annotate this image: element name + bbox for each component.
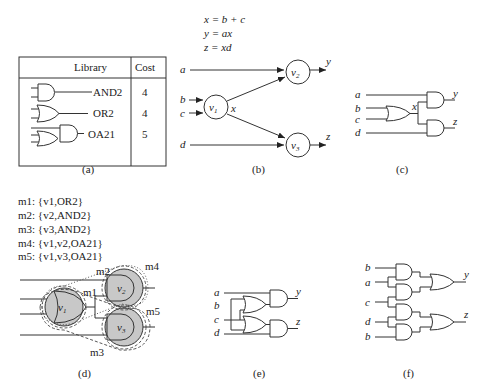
output-z: z — [463, 308, 469, 320]
internal-x: x — [411, 100, 417, 112]
and-gate-z-icon — [270, 320, 288, 337]
output-y: y — [325, 55, 331, 67]
output-y: y — [463, 268, 469, 280]
or-gate-y-icon — [430, 274, 454, 290]
input-b: b — [214, 299, 220, 311]
input-b: b — [180, 93, 186, 105]
and-gate-1-icon — [396, 264, 412, 280]
match-m5: m5: {v1,v3,OA21} — [18, 250, 103, 262]
panel-b-subject-graph: x = b + c y = ax z = xd a b c d v1 v2 v3… — [180, 13, 331, 157]
panel-c-circuit: a b c d x y z — [355, 87, 458, 138]
input-c: c — [355, 113, 360, 125]
caption-e: (e) — [253, 367, 266, 380]
input-a: a — [214, 286, 220, 298]
input-a: a — [365, 276, 371, 288]
or-gate-icon — [386, 106, 410, 121]
equation-z: z = xd — [203, 41, 232, 53]
input-b1: b — [365, 261, 371, 273]
panel-f-circuit: b a c d b y z — [365, 261, 469, 342]
output-y: y — [452, 87, 458, 99]
oa21-label: OA21 — [88, 128, 115, 140]
and-gate-2-icon — [396, 284, 412, 300]
input-b2: b — [365, 330, 371, 342]
panel-e-circuit: a b c d y z — [214, 285, 301, 338]
library-header: Library — [74, 61, 107, 73]
and2-cost: 4 — [142, 86, 148, 98]
caption-f: (f) — [403, 367, 414, 380]
or-gate-top-icon — [243, 296, 266, 313]
input-d: d — [355, 126, 361, 138]
input-d: d — [365, 315, 371, 327]
label-m3: m3 — [90, 346, 105, 358]
and-gate-3-icon — [396, 304, 412, 320]
label-m4: m4 — [145, 260, 160, 272]
output-z: z — [452, 115, 458, 127]
input-a: a — [355, 88, 361, 100]
caption-c: (c) — [396, 163, 409, 176]
caption-a: (a) — [82, 163, 95, 176]
panel-d-matches: m1: {v1,OR2} m2: {v2,AND2} m3: {v3,AND2}… — [18, 195, 161, 358]
and-gate-z-icon — [427, 120, 444, 136]
and-gate-4-icon — [396, 324, 412, 340]
panel-a-library-table: Library Cost AND2 4 OR2 4 OA21 — [19, 57, 166, 166]
figure-canvas: Library Cost AND2 4 OR2 4 OA21 — [0, 0, 478, 386]
input-a: a — [180, 63, 186, 75]
or-gate-bottom-icon — [243, 316, 266, 333]
edge-x-label: x — [230, 102, 236, 114]
cost-header: Cost — [135, 61, 155, 73]
match-m3: m3: {v3,AND2} — [18, 223, 92, 235]
and-gate-y-icon — [427, 92, 444, 108]
match-m2: m2: {v2,AND2} — [18, 209, 92, 221]
and2-gate-icon — [31, 84, 92, 101]
caption-d: (d) — [78, 367, 91, 380]
caption-b: (b) — [252, 163, 265, 176]
output-y: y — [295, 285, 301, 297]
or2-cost: 4 — [142, 107, 148, 119]
output-z: z — [295, 315, 301, 327]
and-gate-y-icon — [270, 290, 288, 307]
match-m4: m4: {v1,v2,OA21} — [18, 237, 103, 249]
and2-label: AND2 — [93, 86, 122, 98]
label-m5: m5 — [146, 305, 161, 317]
output-z: z — [325, 130, 331, 142]
input-d: d — [180, 138, 186, 150]
label-m2: m2 — [96, 265, 110, 277]
label-m1: m1 — [83, 286, 97, 298]
input-c: c — [365, 296, 370, 308]
or-gate-z-icon — [430, 314, 454, 330]
input-c: c — [214, 313, 219, 325]
input-c: c — [180, 107, 185, 119]
oa21-gate-icon — [31, 125, 84, 146]
match-m1: m1: {v1,OR2} — [18, 195, 83, 207]
or2-label: OR2 — [93, 107, 114, 119]
equation-y: y = ax — [203, 27, 232, 39]
or2-gate-icon — [31, 105, 88, 122]
input-d: d — [214, 326, 220, 338]
equation-x: x = b + c — [203, 13, 245, 25]
oa21-cost: 5 — [142, 128, 148, 140]
